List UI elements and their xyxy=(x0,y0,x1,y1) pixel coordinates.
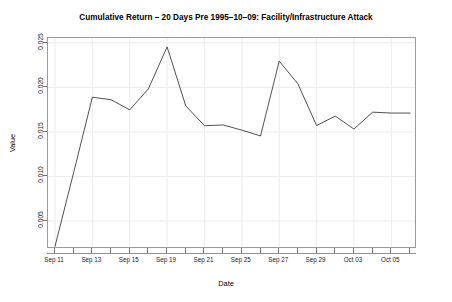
x-axis-line xyxy=(47,253,416,254)
plot-panel xyxy=(47,37,416,248)
x-axis-tick xyxy=(222,248,223,253)
x-axis-tick xyxy=(316,248,317,253)
x-axis-tick xyxy=(241,248,242,253)
x-axis-tick xyxy=(353,248,354,253)
x-axis-tick xyxy=(260,248,261,253)
x-axis-tick-label: Sep 29 xyxy=(306,256,326,263)
y-axis-tick-label: 0.005 xyxy=(38,211,45,228)
x-axis-tick-label: Sep 15 xyxy=(119,256,139,263)
x-axis-tick xyxy=(297,248,298,253)
x-axis-tick xyxy=(147,248,148,253)
x-axis-tick xyxy=(409,248,410,253)
x-axis-tick-label: Sep 19 xyxy=(156,256,176,263)
x-axis-tick xyxy=(203,248,204,253)
series-line-cumulative-return xyxy=(55,47,410,246)
y-axis-tick-label: 0.025 xyxy=(38,33,45,50)
x-axis-tick xyxy=(278,248,279,253)
x-axis-tick xyxy=(73,248,74,253)
x-axis-tick-label: Sep 11 xyxy=(44,256,64,263)
x-axis-tick-label: Oct 05 xyxy=(381,256,400,263)
x-axis-tick xyxy=(110,248,111,253)
chart-container: Cumulative Return – 20 Days Pre 1995–10–… xyxy=(0,0,452,302)
x-axis-tick xyxy=(334,248,335,253)
x-axis-tick-label: Sep 13 xyxy=(81,256,101,263)
y-axis-tick-label: 0.010 xyxy=(38,167,45,184)
chart-title: Cumulative Return – 20 Days Pre 1995–10–… xyxy=(0,13,452,22)
x-axis-tick-label: Sep 25 xyxy=(231,256,251,263)
x-axis-tick xyxy=(54,248,55,253)
x-axis: Sep 11Sep 13Sep 15Sep 19Sep 21Sep 25Sep … xyxy=(47,248,416,270)
x-axis-tick xyxy=(185,248,186,253)
x-axis-tick xyxy=(372,248,373,253)
x-axis-tick-label: Sep 27 xyxy=(268,256,288,263)
plot-area xyxy=(48,38,416,248)
x-axis-tick xyxy=(390,248,391,253)
x-axis-tick xyxy=(91,248,92,253)
y-axis: 0.0050.0100.0150.0200.025 xyxy=(0,37,47,248)
x-axis-tick-label: Oct 03 xyxy=(344,256,363,263)
x-axis-tick-label: Sep 21 xyxy=(193,256,213,263)
x-axis-title: Date xyxy=(0,279,452,288)
x-axis-tick xyxy=(166,248,167,253)
y-axis-tick-label: 0.020 xyxy=(38,78,45,95)
y-axis-tick-label: 0.015 xyxy=(38,122,45,139)
x-axis-tick xyxy=(129,248,130,253)
